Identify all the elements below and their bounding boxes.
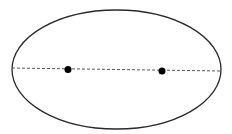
focus-point-right [159,68,166,75]
focus-point-left [65,66,72,73]
ellipse-outline [12,10,221,129]
ellipse-diagram [0,0,232,134]
major-axis-dashed-line [12,68,221,71]
